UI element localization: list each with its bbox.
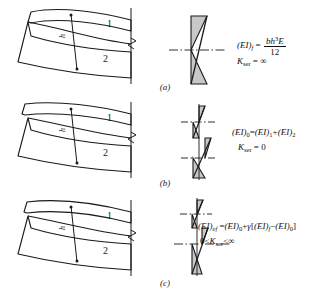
formula-b-line2: Kser = 0 (238, 141, 266, 155)
formula-c-line1: (EI)ef =(EI)0+γ[(EI)f−(EI)0] (198, 220, 296, 234)
formula-b-line1: (EI)0=(EI)1+(EI)2 (232, 126, 295, 140)
panel-a: (EI)f = bh3E 12 Kser = ∞ (a) (0, 0, 326, 92)
stress-triangle-lower (191, 50, 207, 84)
beam-layer-1 (24, 201, 131, 223)
section-line (71, 14, 77, 70)
stress-diagram-b (181, 104, 215, 180)
formula-a-line2: Kser = ∞ (237, 55, 267, 69)
panel-b-depth-label: h (58, 128, 67, 132)
panel-c-layer-label-2: 2 (103, 245, 108, 256)
panel-b-layer-label-1: 1 (107, 112, 112, 123)
panel-a-depth-label: h (58, 34, 67, 38)
panel-b-caption: (b) (145, 178, 185, 188)
beam-interface (28, 22, 131, 44)
panel-c-caption: (c) (145, 278, 185, 288)
panel-a-layer-label-1: 1 (107, 18, 112, 29)
panel-c-layer-label-1: 1 (107, 210, 112, 221)
stress-triangle-upper (191, 16, 207, 50)
beam-layer-1 (22, 103, 131, 125)
panel-c-graphic (0, 190, 326, 285)
composite-beam-stiffness-figure: (EI)f = bh3E 12 Kser = ∞ (a) (0, 0, 326, 292)
section-line (71, 206, 77, 262)
formula-c-line2: 0<Kser<∞ (200, 235, 235, 249)
panel-c: (EI)ef =(EI)0+γ[(EI)f−(EI)0] 0<Kser<∞ (c… (0, 190, 326, 282)
panel-b: (EI)0=(EI)1+(EI)2 Kser = 0 (b) (0, 94, 326, 186)
panel-b-graphic (0, 94, 326, 186)
beam-layer-1 (28, 10, 131, 31)
panel-c-depth-label: h (58, 226, 67, 230)
panel-b-layer-label-2: 2 (103, 147, 108, 158)
panel-a-layer-label-2: 2 (103, 53, 108, 64)
section-line (71, 108, 77, 164)
panel-a-caption: (a) (145, 82, 185, 92)
stress-diagram-a (169, 16, 225, 84)
